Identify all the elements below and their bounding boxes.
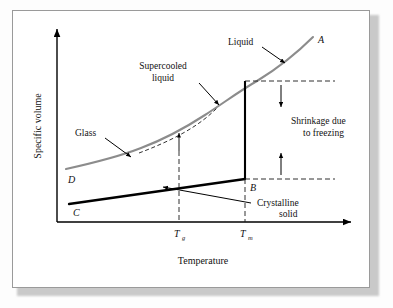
crystalline-solid-line bbox=[69, 179, 245, 204]
glass-label: Glass bbox=[75, 128, 96, 138]
tick-tg-subscript: g bbox=[182, 234, 186, 241]
liquid-leader-line bbox=[262, 47, 285, 63]
glass-leader-line bbox=[105, 138, 131, 157]
tick-label-tg: T g bbox=[174, 228, 186, 241]
tick-label-tm: T m bbox=[240, 228, 253, 241]
crystalline-solid-label-line1: Crystalline bbox=[257, 198, 299, 208]
supercooled-leader-line bbox=[199, 83, 219, 105]
point-label-b: B bbox=[250, 182, 256, 193]
shrinkage-annotation-line2: to freezing bbox=[303, 128, 344, 138]
crystalline-solid-label-line2: solid bbox=[279, 209, 298, 219]
page-background: Liquid Supercooled liquid Glass Crystall… bbox=[0, 0, 393, 308]
crystalline-leader-line bbox=[163, 187, 251, 203]
x-axis-title: Temperature bbox=[178, 255, 229, 266]
specific-volume-temperature-chart: Liquid Supercooled liquid Glass Crystall… bbox=[13, 11, 371, 289]
tick-tm-base: T bbox=[240, 228, 247, 239]
supercooled-liquid-label-line1: Supercooled bbox=[139, 61, 187, 71]
liquid-label: Liquid bbox=[228, 37, 254, 47]
figure-frame: Liquid Supercooled liquid Glass Crystall… bbox=[12, 10, 370, 288]
tick-tm-subscript: m bbox=[248, 234, 253, 241]
point-label-c: C bbox=[73, 207, 80, 218]
point-label-d: D bbox=[67, 174, 76, 185]
supercooled-liquid-label-line2: liquid bbox=[152, 73, 174, 83]
y-axis-title: Specific volume bbox=[32, 93, 43, 159]
point-label-a: A bbox=[317, 34, 325, 45]
shrinkage-annotation-line1: Shrinkage due bbox=[291, 116, 346, 126]
tick-tg-base: T bbox=[174, 228, 181, 239]
